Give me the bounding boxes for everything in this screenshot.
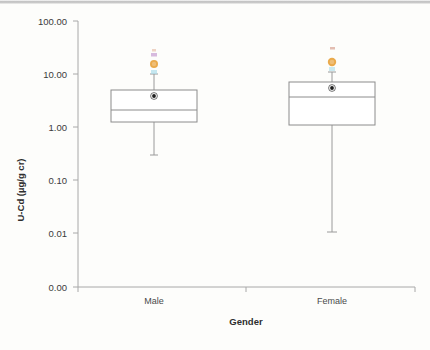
- female-outlier-secondary: [329, 67, 335, 71]
- y-tick-label-5: 0.00: [49, 282, 68, 293]
- female-outlier-tertiary: [330, 47, 335, 50]
- y-tick-label-0: 100.00: [38, 16, 67, 27]
- female-mean-marker: [330, 86, 334, 90]
- y-tick-label-1: 10.00: [43, 69, 67, 80]
- male-mean-marker: [152, 94, 156, 98]
- y-axis-title: U-Cd (µg/g cr): [15, 159, 26, 222]
- box-group-female: [289, 47, 375, 232]
- y-tick-label-2: 1.00: [49, 122, 68, 133]
- chart-svg: 100.00 10.00 1.00 0.10 0.01 0.00 U-Cd (µ…: [0, 0, 430, 350]
- box-plot-chart: 100.00 10.00 1.00 0.10 0.01 0.00 U-Cd (µ…: [0, 0, 430, 350]
- box-group-male: [111, 49, 197, 155]
- female-outlier-primary-core: [330, 60, 335, 65]
- male-outlier-secondary: [151, 70, 157, 74]
- x-axis-title: Gender: [229, 316, 263, 327]
- y-tick-label-3: 0.10: [49, 175, 68, 186]
- male-outlier-tertiary: [151, 53, 157, 57]
- male-outlier-primary-core: [152, 62, 156, 66]
- male-outlier-quaternary: [152, 49, 156, 52]
- x-category-label-female: Female: [317, 296, 347, 306]
- x-axis-ticks: [78, 287, 415, 292]
- x-category-label-male: Male: [144, 296, 164, 306]
- y-tick-label-4: 0.01: [49, 228, 68, 239]
- y-axis-ticks: [73, 21, 78, 287]
